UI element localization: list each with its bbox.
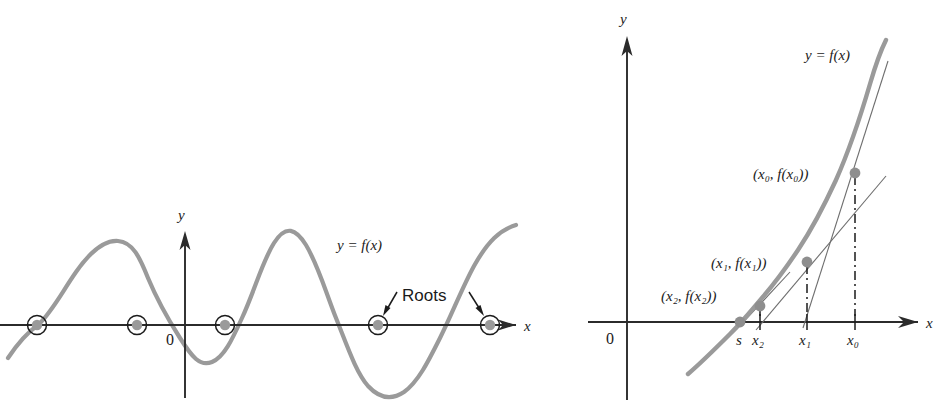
point-x2 bbox=[755, 301, 766, 312]
figure-canvas: y x 0 y = f(x) Roots bbox=[0, 0, 940, 408]
tick-label-x2: x₂ bbox=[751, 332, 764, 348]
point-x0 bbox=[850, 168, 861, 179]
tangent-line-at-x0 bbox=[803, 61, 888, 328]
left-panel-roots-diagram: y x 0 y = f(x) Roots bbox=[0, 207, 531, 398]
drop-lines bbox=[760, 176, 855, 316]
left-x-axis-label: x bbox=[523, 318, 531, 334]
textbook-figure-newtons-method: y x 0 y = f(x) Roots bbox=[0, 0, 940, 408]
left-function-curve bbox=[8, 225, 516, 397]
tick-label-x0: x₀ bbox=[846, 332, 859, 348]
right-function-curve bbox=[688, 40, 886, 374]
tick-label-x1: x₁ bbox=[798, 332, 811, 348]
right-x-axis-label: x bbox=[925, 315, 933, 331]
right-y-axis-label: y bbox=[618, 11, 627, 27]
roots-annotation-label: Roots bbox=[402, 286, 446, 305]
left-origin-label: 0 bbox=[166, 331, 174, 348]
point-label-x1: (x₁, f(x₁)) bbox=[711, 255, 766, 272]
right-curve-label: y = f(x) bbox=[803, 47, 850, 64]
tangent-line-at-x1 bbox=[756, 176, 886, 330]
left-curve-label: y = f(x) bbox=[335, 237, 382, 254]
right-panel-newtons-method-diagram: y x 0 y = f(x) (x₀, f(x₀)) (x₁, f(x₁)) (… bbox=[588, 11, 933, 400]
point-root-s bbox=[735, 317, 746, 328]
tick-label-s: s bbox=[736, 332, 742, 348]
left-y-axis-label: y bbox=[176, 207, 185, 223]
point-label-x0: (x₀, f(x₀)) bbox=[753, 166, 808, 183]
right-origin-label: 0 bbox=[606, 330, 614, 347]
point-x1 bbox=[802, 257, 813, 268]
point-label-x2: (x₂, f(x₂)) bbox=[661, 288, 716, 305]
